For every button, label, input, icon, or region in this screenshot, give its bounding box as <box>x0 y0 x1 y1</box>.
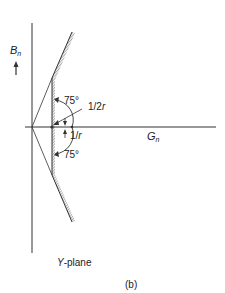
r-var: r <box>102 101 105 112</box>
half-inv-r-label: 1/2r <box>88 102 105 112</box>
figure-caption: (b) <box>125 280 137 290</box>
inv-r-dot <box>71 126 74 129</box>
plane-label: Y-plane <box>57 258 91 268</box>
y-plane-diagram <box>0 0 225 293</box>
axis-var-g: G <box>147 130 156 142</box>
arrow-up-icon <box>14 61 19 75</box>
axis-sub-n: n <box>17 50 21 57</box>
horizontal-axis-label: Gn <box>147 131 159 143</box>
center-dot <box>50 125 53 128</box>
half-inv-r-num: 1/2 <box>88 101 102 112</box>
vertical-axis-label: Bn <box>10 45 21 57</box>
angle-label-upper: 75° <box>64 96 79 106</box>
origin-line-lower <box>32 127 52 175</box>
plane-var: Y <box>57 257 64 268</box>
origin-line-upper <box>32 78 52 127</box>
inv-r-marker <box>63 118 67 138</box>
plane-rest: -plane <box>64 257 92 268</box>
angle-label-lower: 75° <box>64 150 79 160</box>
inv-r-label: 1/r <box>70 131 82 141</box>
r-var: r <box>78 130 81 141</box>
half-inv-r-pointer <box>55 109 82 124</box>
axis-sub-n: n <box>156 136 160 143</box>
